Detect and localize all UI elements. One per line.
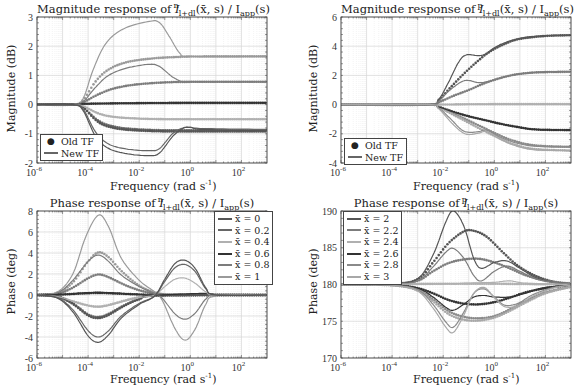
line-swatch-icon <box>218 276 232 278</box>
legend-item-new-tf: New TF <box>44 148 99 160</box>
legend-label: x̄ = 0.8 <box>235 259 269 271</box>
x-tick-label: 10-2 <box>432 165 448 178</box>
marker-dot-icon: ● <box>348 140 362 152</box>
line-swatch-icon <box>44 152 58 154</box>
y-axis-label: Phase (deg) <box>307 237 320 327</box>
x-axis-label-end: ) <box>212 373 216 386</box>
y-tick-label: 2 <box>28 269 33 280</box>
y-axis-label: Phase (deg) <box>5 237 18 327</box>
line-swatch-icon <box>347 218 361 220</box>
marker-dot-icon: ● <box>44 136 58 148</box>
series-new-tf-line <box>341 72 571 105</box>
legend: x̄ = 0x̄ = 0.2x̄ = 0.4x̄ = 0.6x̄ = 0.8x̄… <box>214 211 273 285</box>
x-axis-label-end: ) <box>212 180 216 193</box>
x-axis-label-end: ) <box>515 373 519 386</box>
line-swatch-icon <box>347 276 361 278</box>
legend: x̄ = 2x̄ = 2.2x̄ = 2.4x̄ = 2.6x̄ = 2.8x̄… <box>343 211 402 285</box>
legend-item: x̄ = 0.8 <box>218 259 269 271</box>
series-new-tf-line <box>37 21 267 105</box>
legend-label: Old TF <box>61 136 94 148</box>
line-swatch-icon <box>218 253 232 255</box>
legend-item: x̄ = 0.2 <box>218 225 269 237</box>
line-swatch-icon <box>218 264 232 266</box>
x-tick-label: 10-2 <box>128 165 144 178</box>
y-tick-label: 180 <box>322 279 337 290</box>
legend-label: x̄ = 0.4 <box>235 236 269 248</box>
legend-label: x̄ = 2.2 <box>364 225 398 237</box>
y-tick-label: 0 <box>28 290 33 301</box>
panel-magnitude-n: Magnitude response of Inl+dl(x̄, s) / Ia… <box>0 0 290 196</box>
x-tick-label: 100 <box>485 165 499 178</box>
x-axis-label-end: ) <box>515 180 519 193</box>
series-old-tf-markers <box>36 55 267 106</box>
x-tick-label: 10-6 <box>26 360 42 373</box>
y-tick-label: 3 <box>28 12 33 23</box>
x-axis-label-text: Frequency (rad s <box>110 373 205 386</box>
y-tick-label: 175 <box>322 316 337 327</box>
line-swatch-icon <box>347 264 361 266</box>
legend-item: x̄ = 3 <box>347 271 398 283</box>
y-tick-label: 4 <box>332 41 337 52</box>
x-tick-label: 10-4 <box>77 165 93 178</box>
plot-area: -2-1012310-610-410-2100102 <box>0 0 290 196</box>
x-axis-label-text: Frequency (rad s <box>413 180 508 193</box>
legend-label: x̄ = 0.2 <box>235 225 269 237</box>
legend-item-old-tf: ●Old TF <box>348 140 403 152</box>
plot-area: -4-2024610-610-410-2100102 <box>290 0 577 196</box>
y-tick-label: 1 <box>28 70 33 81</box>
line-swatch-icon <box>347 229 361 231</box>
line-swatch-icon <box>347 241 361 243</box>
x-tick-label: 10-6 <box>330 165 346 178</box>
legend-item-new-tf: New TF <box>348 152 403 164</box>
y-tick-label: 6 <box>28 227 33 238</box>
x-axis-label-text: Frequency (rad s <box>110 180 205 193</box>
legend-label: New TF <box>365 152 403 164</box>
legend-item: x̄ = 2 <box>347 213 398 225</box>
line-swatch-icon <box>218 229 232 231</box>
x-axis-label: Frequency (rad s-1) <box>413 179 519 193</box>
x-axis-label: Frequency (rad s-1) <box>110 179 216 193</box>
legend-item: x̄ = 2.4 <box>347 236 398 248</box>
legend-label: x̄ = 3 <box>364 271 389 283</box>
x-tick-label: 10-4 <box>77 360 93 373</box>
legend-label: New TF <box>61 148 99 160</box>
x-tick-label: 10-4 <box>381 360 397 373</box>
y-tick-label: -2 <box>25 311 33 322</box>
legend-label: x̄ = 2.8 <box>364 259 398 271</box>
line-swatch-icon <box>347 253 361 255</box>
x-tick-label: 102 <box>232 360 246 373</box>
x-axis-label-text: Frequency (rad s <box>413 373 508 386</box>
x-tick-label: 100 <box>181 165 195 178</box>
legend-item: x̄ = 2.8 <box>347 259 398 271</box>
line-swatch-icon <box>218 218 232 220</box>
legend-label: x̄ = 0.6 <box>235 248 269 260</box>
x-tick-label: 10-4 <box>381 165 397 178</box>
y-axis-label: Magnitude (dB) <box>307 44 320 134</box>
legend-item: x̄ = 0.4 <box>218 236 269 248</box>
x-axis-label: Frequency (rad s-1) <box>110 372 216 386</box>
legend-label: x̄ = 2.4 <box>364 236 398 248</box>
panel-phase-n: Phase response of Inl+dl(x̄, s) / Iapp(s… <box>0 195 290 392</box>
panel-magnitude-p: Magnitude response of Ipl+dl(x̄, s) / Ia… <box>290 0 577 196</box>
legend-label: x̄ = 0 <box>235 213 260 225</box>
legend-item: x̄ = 1 <box>218 271 269 283</box>
y-tick-label: 6 <box>332 12 337 23</box>
legend-label: Old TF <box>365 140 398 152</box>
x-tick-label: 10-6 <box>26 165 42 178</box>
y-tick-label: 0 <box>28 99 33 110</box>
panel-phase-p: Phase response of Ipl+dl(x̄, s) / Iapp(s… <box>290 195 577 392</box>
legend-item: x̄ = 0 <box>218 213 269 225</box>
series-new-tf-line <box>37 64 267 105</box>
y-tick-label: 0 <box>332 99 337 110</box>
x-tick-label: 102 <box>536 360 550 373</box>
legend: ●Old TF New TF <box>344 138 407 165</box>
y-axis-label: Magnitude (dB) <box>5 44 18 134</box>
y-tick-label: 8 <box>28 206 33 217</box>
legend-item-old-tf: ●Old TF <box>44 136 99 148</box>
legend-item: x̄ = 2.6 <box>347 248 398 260</box>
y-tick-label: 190 <box>322 206 337 217</box>
x-tick-label: 10-6 <box>330 360 346 373</box>
y-tick-label: -2 <box>329 128 337 139</box>
legend: ●Old TF New TF <box>40 134 103 161</box>
series-new-tf-line <box>37 105 267 120</box>
